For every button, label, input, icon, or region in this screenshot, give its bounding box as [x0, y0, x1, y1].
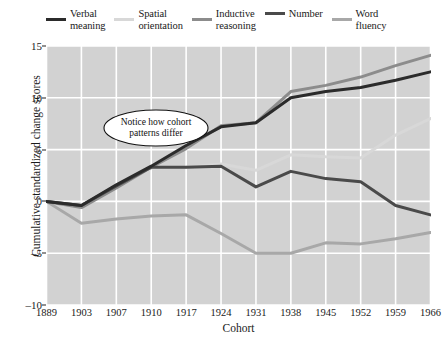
annotation-text: Notice how cohort patterns differ — [103, 109, 209, 147]
legend-swatch-icon — [332, 18, 352, 21]
x-axis-title: Cohort — [46, 322, 431, 334]
legend-item[interactable]: Number — [265, 8, 323, 20]
legend-swatch-icon — [114, 18, 134, 21]
data-lines — [46, 46, 431, 305]
legend-label: Inductive reasoning — [216, 8, 256, 31]
x-axis-ticks: 1889190319071910191719241931193819451952… — [46, 307, 431, 323]
y-axis-title: Cumulative standardized change scores — [30, 46, 42, 286]
series-line — [47, 201, 431, 253]
legend-label: Spatial orientation — [138, 8, 182, 31]
legend-label: Number — [289, 8, 323, 20]
legend-label: Word fluency — [356, 8, 387, 31]
legend-swatch-icon — [265, 12, 285, 15]
x-tick-label: 1966 — [409, 307, 446, 319]
legend-item[interactable]: Word fluency — [332, 8, 387, 31]
legend-item[interactable]: Inductive reasoning — [192, 8, 256, 31]
annotation-callout: Notice how cohort patterns differ — [103, 109, 209, 147]
legend-label: Verbal meaning — [70, 8, 105, 31]
legend-item[interactable]: Verbal meaning — [46, 8, 105, 31]
legend-item[interactable]: Spatial orientation — [114, 8, 182, 31]
chart-legend: Verbal meaningSpatial orientationInducti… — [46, 8, 433, 42]
plot-area: Notice how cohort patterns differ — [46, 46, 431, 305]
legend-swatch-icon — [46, 18, 66, 21]
legend-swatch-icon — [192, 18, 212, 21]
